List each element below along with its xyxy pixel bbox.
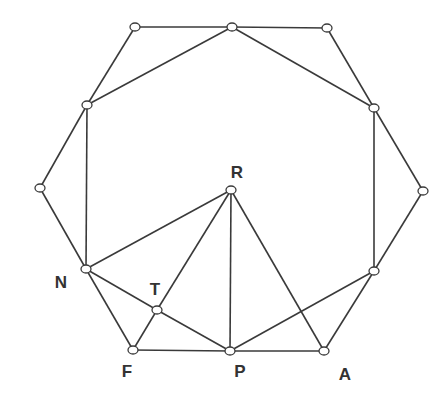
vertex-v1 xyxy=(130,23,140,31)
vertex-F xyxy=(128,346,138,354)
edge-R-P xyxy=(230,190,231,351)
edge-v4-v6 xyxy=(40,105,87,188)
edge-T-R xyxy=(157,190,231,310)
vertex-label-A: A xyxy=(339,365,351,385)
vertex-v8 xyxy=(369,267,379,275)
vertex-v3 xyxy=(322,24,332,32)
edge-v2-v4 xyxy=(87,27,232,105)
edge-v5-v7 xyxy=(374,108,423,191)
vertex-A xyxy=(319,347,329,355)
edge-v3-v5 xyxy=(327,28,374,108)
edge-P-v8 xyxy=(230,271,374,351)
vertex-label-N: N xyxy=(55,273,67,293)
vertex-v5 xyxy=(369,104,379,112)
vertex-v6 xyxy=(35,184,45,192)
vertex-N xyxy=(81,265,91,273)
edge-A-v8 xyxy=(324,271,374,351)
vertex-label-P: P xyxy=(234,362,245,382)
edge-F-T xyxy=(133,310,157,350)
edge-N-T xyxy=(86,269,157,310)
edge-R-A xyxy=(231,190,324,351)
vertex-label-T: T xyxy=(150,280,160,300)
vertex-v2 xyxy=(227,23,237,31)
vertex-T xyxy=(152,306,162,314)
vertex-R xyxy=(226,186,236,194)
edge-F-P xyxy=(133,350,230,351)
vertex-v4 xyxy=(82,101,92,109)
edge-N-F xyxy=(86,269,133,350)
edge-v7-v8 xyxy=(374,191,423,271)
graph-diagram: RNTFPA xyxy=(0,0,447,399)
edge-v2-v3 xyxy=(232,27,327,28)
edge-v4-N xyxy=(86,105,87,269)
edge-v2-v5 xyxy=(232,27,374,108)
vertex-P xyxy=(225,347,235,355)
vertex-label-F: F xyxy=(122,362,132,382)
edge-v6-N xyxy=(40,188,86,269)
edge-T-P xyxy=(157,310,230,351)
edge-N-R xyxy=(86,190,231,269)
vertex-label-R: R xyxy=(231,163,243,183)
graph-canvas xyxy=(0,0,447,399)
vertex-v7 xyxy=(418,187,428,195)
edge-v1-v4 xyxy=(87,27,135,105)
